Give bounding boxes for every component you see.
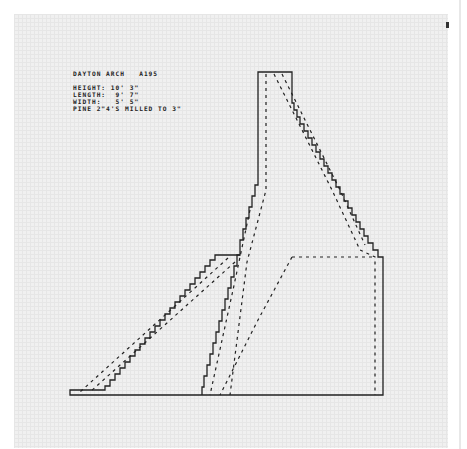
arch-inner-leg [202,255,240,395]
hidden-lines [80,74,375,395]
arch-drawing [0,0,467,449]
arch-outline [70,72,383,395]
